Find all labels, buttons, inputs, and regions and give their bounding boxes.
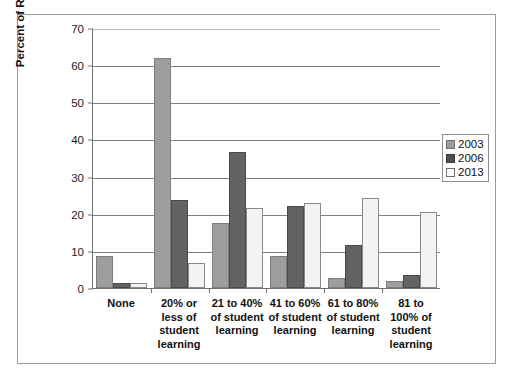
bar-2003	[270, 256, 287, 288]
legend-label: 2003	[458, 138, 484, 150]
bar-2003	[386, 281, 403, 288]
x-axis-label: 41 to 60%of studentlearning	[266, 297, 324, 351]
x-axis-label-line: student	[151, 324, 207, 338]
bar-2006	[403, 275, 420, 288]
x-axis-label: 21 to 40%of studentlearning	[208, 297, 266, 351]
x-axis-label-line: learning	[151, 338, 207, 352]
bar-groups	[93, 29, 440, 288]
legend-label: 2013	[458, 166, 484, 178]
bar-group	[151, 29, 209, 288]
y-tick-label: 60	[71, 60, 93, 72]
x-axis-label-line: 61 to 80%	[325, 297, 381, 311]
bar-2003	[154, 58, 171, 288]
bar-2006	[287, 206, 304, 288]
y-axis-title: Percent of Respondents	[14, 0, 26, 81]
x-axis-label-line: learning	[383, 338, 439, 352]
legend-item-2006: 2006	[446, 152, 484, 164]
bar-2013	[130, 283, 147, 288]
x-axis-label-line: of student	[325, 311, 381, 325]
plot-area: 706050403020100	[92, 29, 440, 289]
x-axis-label-line: of student	[209, 311, 265, 325]
legend-item-2003: 2003	[446, 138, 484, 150]
y-tick-label: 30	[71, 172, 93, 184]
dark-gray-swatch	[446, 154, 455, 163]
bar-group	[324, 29, 382, 288]
y-tick-label: 40	[71, 134, 93, 146]
x-axis-label-line: 100% of	[383, 311, 439, 325]
chart-legend: 200320062013	[442, 134, 489, 182]
x-axis-label-line: student	[383, 324, 439, 338]
bar-group	[266, 29, 324, 288]
x-axis-label-line: learning	[325, 324, 381, 338]
bar-2013	[304, 203, 321, 288]
x-axis-label-line: 20% or	[151, 297, 207, 311]
bar-group	[93, 29, 151, 288]
bar-2006	[171, 200, 188, 288]
bar-2013	[246, 208, 263, 288]
bar-2006	[113, 283, 130, 288]
x-axis-labels: None20% orless ofstudentlearning21 to 40…	[92, 297, 440, 351]
x-axis-label: None	[92, 297, 150, 351]
x-axis-label: 61 to 80%of studentlearning	[324, 297, 382, 351]
bar-2006	[345, 245, 362, 288]
x-axis-label: 20% orless ofstudentlearning	[150, 297, 208, 351]
bar-2003	[96, 256, 113, 288]
light-gray-swatch	[446, 140, 455, 149]
x-axis-label-line: learning	[267, 324, 323, 338]
legend-item-2013: 2013	[446, 166, 484, 178]
bar-2003	[212, 223, 229, 288]
y-tick-label: 50	[71, 97, 93, 109]
y-tick-label: 10	[71, 246, 93, 258]
white-swatch	[446, 168, 455, 177]
bar-group	[382, 29, 440, 288]
x-axis-label-line: learning	[209, 324, 265, 338]
x-axis-label-line: 81 to	[383, 297, 439, 311]
y-tick-label: 70	[71, 23, 93, 35]
x-axis-label: 81 to100% ofstudentlearning	[382, 297, 440, 351]
y-tick-label: 0	[78, 283, 93, 295]
x-axis-label-line: None	[93, 297, 149, 311]
chart-frame: Percent of Respondents 706050403020100 N…	[17, 14, 496, 364]
x-axis-label-line: 41 to 60%	[267, 297, 323, 311]
x-axis-label-line: less of	[151, 311, 207, 325]
x-axis-label-line: 21 to 40%	[209, 297, 265, 311]
bar-2013	[362, 198, 379, 288]
bar-group	[209, 29, 267, 288]
bar-2013	[188, 263, 205, 288]
bar-2003	[328, 278, 345, 288]
legend-label: 2006	[458, 152, 484, 164]
y-tick-label: 20	[71, 209, 93, 221]
x-axis-label-line: of student	[267, 311, 323, 325]
bar-2006	[229, 152, 246, 288]
bar-2013	[420, 212, 437, 288]
